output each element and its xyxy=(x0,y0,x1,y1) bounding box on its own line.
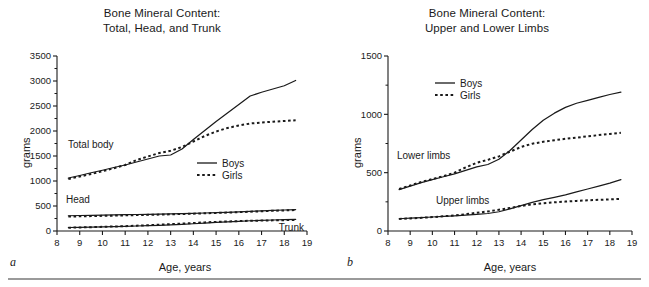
figure-bone-mineral-content: Bone Mineral Content: Total, Head, and T… xyxy=(0,0,649,287)
figure-bottom-rule xyxy=(8,278,641,280)
series-group-label-lower-limbs: Lower limbs xyxy=(397,150,450,161)
x-tick-label: 9 xyxy=(408,237,413,248)
y-tick-label: 500 xyxy=(366,167,382,178)
y-tick-label: 500 xyxy=(35,200,51,211)
x-tick-label: 13 xyxy=(165,237,176,248)
panel-a-y-axis-title: grams xyxy=(20,137,32,168)
x-tick-label: 8 xyxy=(385,237,390,248)
y-tick-label: 2000 xyxy=(30,125,51,136)
panel-b-plot: 0500100015008910111213141516171819Lower … xyxy=(325,0,649,287)
y-tick-label: 1500 xyxy=(30,150,51,161)
series-line-total-body-boys xyxy=(68,81,295,179)
x-tick-label: 13 xyxy=(494,237,505,248)
panel-b-letter: b xyxy=(347,255,353,270)
series-line-lower-limbs-boys xyxy=(399,92,621,189)
series-group-label-total-body: Total body xyxy=(68,139,114,150)
panel-b-x-axis-title: Age, years xyxy=(385,261,635,273)
x-tick-label: 18 xyxy=(279,237,290,248)
x-tick-label: 19 xyxy=(302,237,313,248)
x-tick-label: 16 xyxy=(560,237,571,248)
y-tick-label: 1000 xyxy=(361,109,382,120)
x-tick-label: 14 xyxy=(516,237,527,248)
x-tick-label: 11 xyxy=(450,237,460,248)
x-tick-label: 15 xyxy=(211,237,222,248)
legend-label-girls: Girls xyxy=(460,90,481,101)
x-tick-label: 10 xyxy=(97,237,108,248)
x-tick-label: 15 xyxy=(538,237,549,248)
series-group-label-head: Head xyxy=(66,194,90,205)
legend-label-boys: Boys xyxy=(460,78,482,89)
x-tick-label: 8 xyxy=(54,237,59,248)
panel-b: Bone Mineral Content: Upper and Lower Li… xyxy=(325,0,649,287)
panel-a-x-axis-title: Age, years xyxy=(60,261,310,273)
x-tick-label: 9 xyxy=(77,237,82,248)
x-tick-label: 10 xyxy=(427,237,438,248)
x-tick-label: 19 xyxy=(627,237,638,248)
y-tick-label: 3500 xyxy=(30,50,51,61)
y-tick-label: 1500 xyxy=(361,50,382,61)
legend-label-girls: Girls xyxy=(222,170,243,181)
y-tick-label: 3000 xyxy=(30,75,51,86)
x-tick-label: 12 xyxy=(143,237,154,248)
series-group-label-trunk: Trunk xyxy=(279,222,305,233)
x-tick-label: 12 xyxy=(471,237,482,248)
y-tick-label: 0 xyxy=(377,225,382,236)
x-tick-label: 17 xyxy=(256,237,267,248)
panel-a-letter: a xyxy=(10,255,16,270)
x-tick-label: 11 xyxy=(120,237,130,248)
x-tick-label: 17 xyxy=(582,237,593,248)
series-line-upper-limbs-boys xyxy=(399,180,621,219)
y-tick-label: 2500 xyxy=(30,100,51,111)
panel-b-y-axis-title: grams xyxy=(351,137,363,168)
panel-a: Bone Mineral Content: Total, Head, and T… xyxy=(0,0,324,287)
x-tick-label: 18 xyxy=(605,237,616,248)
series-group-label-upper-limbs: Upper limbs xyxy=(436,195,489,206)
panel-a-plot: 0500100015002000250030003500891011121314… xyxy=(0,0,324,287)
x-tick-label: 14 xyxy=(188,237,199,248)
legend-label-boys: Boys xyxy=(222,158,244,169)
x-tick-label: 16 xyxy=(234,237,245,248)
y-tick-label: 1000 xyxy=(30,175,51,186)
y-tick-label: 0 xyxy=(46,225,51,236)
